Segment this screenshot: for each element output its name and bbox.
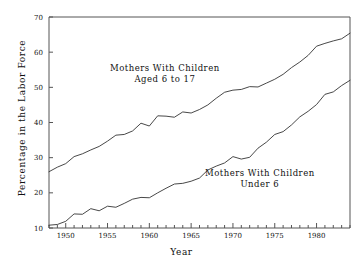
series-line-under-6	[49, 80, 350, 225]
series-label-aged-6-to-17: Mothers With Children Aged 6 to 17	[110, 63, 220, 85]
series-label-line1: Mothers With Children	[110, 63, 220, 74]
x-tick-label: 1970	[224, 232, 242, 240]
line-chart: 10203040506070 1950195519601965197019751…	[0, 0, 363, 266]
plot-frame	[49, 17, 350, 228]
y-tick-label: 40	[34, 119, 43, 127]
series-label-line2: Under 6	[205, 179, 315, 190]
series-label-line1: Mothers With Children	[205, 168, 315, 179]
y-tick-label: 20	[34, 189, 43, 197]
series-line-aged-6-to-17	[49, 33, 350, 172]
series-label-line2: Aged 6 to 17	[110, 74, 220, 85]
x-tick-label: 1960	[140, 232, 158, 240]
y-tick-label: 30	[34, 154, 43, 162]
y-tick-label: 50	[34, 84, 43, 92]
y-tick-label: 70	[34, 14, 43, 22]
y-axis-title: Percentage in the Labor Force	[17, 38, 27, 198]
x-tick-label: 1975	[266, 232, 284, 240]
y-axis-ticks: 10203040506070	[34, 14, 53, 233]
series-label-under-6: Mothers With Children Under 6	[205, 168, 315, 190]
data-series-lines	[49, 33, 350, 225]
x-tick-label: 1955	[99, 232, 117, 240]
chart-figure: 10203040506070 1950195519601965197019751…	[0, 0, 363, 266]
y-tick-label: 10	[34, 225, 43, 233]
x-tick-label: 1980	[308, 232, 326, 240]
x-tick-label: 1965	[182, 232, 200, 240]
x-tick-label: 1950	[57, 232, 75, 240]
x-axis-title: Year	[0, 247, 363, 257]
y-tick-label: 60	[34, 49, 43, 57]
x-axis-ticks: 1950195519601965197019751980	[49, 223, 350, 240]
